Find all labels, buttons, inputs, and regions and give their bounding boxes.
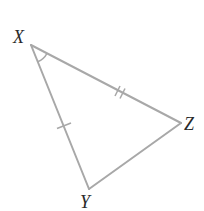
triangle-diagram: X Y Z: [0, 0, 204, 211]
angle-x-arc: [38, 53, 47, 61]
edge-xz: [31, 45, 181, 123]
edge-zy: [89, 123, 181, 189]
edge-yx: [31, 45, 89, 189]
vertex-label-y: Y: [80, 192, 92, 211]
vertex-label-x: X: [12, 27, 25, 47]
vertex-label-z: Z: [184, 114, 195, 134]
